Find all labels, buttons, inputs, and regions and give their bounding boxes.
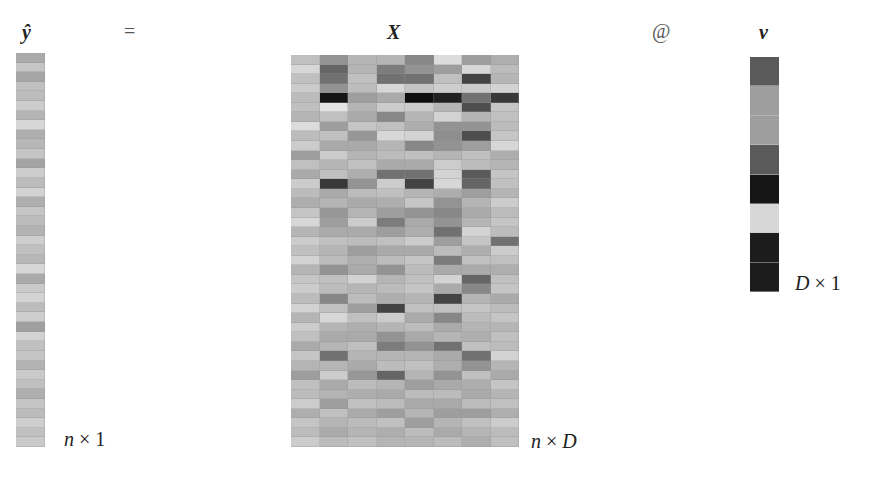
x-matrix-cell <box>377 313 406 323</box>
x-matrix-cell <box>348 294 377 304</box>
x-matrix-cell <box>462 112 491 122</box>
x-matrix-cell <box>320 55 349 65</box>
yhat-cell <box>16 418 45 428</box>
x-matrix-cell <box>405 332 434 342</box>
x-matrix-cell <box>462 284 491 294</box>
x-matrix-cell <box>348 342 377 352</box>
yhat-label: ŷ <box>22 22 31 42</box>
x-matrix-cell <box>434 141 463 151</box>
x-matrix-cell <box>348 390 377 400</box>
x-matrix-cell <box>434 371 463 381</box>
x-matrix-cell <box>377 65 406 75</box>
x-matrix-cell <box>377 237 406 247</box>
x-matrix-cell <box>320 371 349 381</box>
x-matrix-cell <box>377 74 406 84</box>
x-matrix-cell <box>348 428 377 438</box>
x-matrix-cell <box>320 409 349 419</box>
x-matrix-cell <box>434 55 463 65</box>
x-matrix-cell <box>491 103 520 113</box>
x-matrix-cell <box>405 141 434 151</box>
x-matrix-cell <box>491 418 520 428</box>
x-matrix-cell <box>291 428 320 438</box>
x-matrix-cell <box>462 371 491 381</box>
x-matrix-cell <box>491 84 520 94</box>
x-matrix-cell <box>491 198 520 208</box>
yhat-cell <box>16 91 45 101</box>
yhat-cell <box>16 389 45 399</box>
x-matrix-cell <box>320 237 349 247</box>
x-matrix-cell <box>405 218 434 228</box>
x-matrix-cell <box>462 160 491 170</box>
x-matrix-cell <box>491 256 520 266</box>
x-matrix-cell <box>291 208 320 218</box>
x-matrix-cell <box>377 399 406 409</box>
x-matrix-cell <box>320 380 349 390</box>
x-matrix-cell <box>434 342 463 352</box>
x-matrix-cell <box>348 399 377 409</box>
x-matrix-cell <box>405 170 434 180</box>
x-matrix-cell <box>320 74 349 84</box>
x-matrix-cell <box>405 409 434 419</box>
x-matrix-cell <box>434 428 463 438</box>
x-matrix-cell <box>377 112 406 122</box>
x-matrix-cell <box>462 227 491 237</box>
yhat-cell <box>16 139 45 149</box>
yhat-cell <box>16 63 45 73</box>
x-matrix-cell <box>291 390 320 400</box>
x-matrix-cell <box>405 275 434 285</box>
x-matrix-cell <box>462 428 491 438</box>
yhat-cell <box>16 149 45 159</box>
x-matrix-cell <box>462 323 491 333</box>
yhat-cell <box>16 111 45 121</box>
x-matrix-cell <box>434 294 463 304</box>
x-matrix-cell <box>291 351 320 361</box>
x-matrix-cell <box>405 380 434 390</box>
x-matrix-cell <box>434 284 463 294</box>
x-matrix-cell <box>377 179 406 189</box>
x-matrix-cell <box>491 380 520 390</box>
x-matrix-cell <box>462 141 491 151</box>
x-matrix-cell <box>377 246 406 256</box>
x-matrix-cell <box>491 294 520 304</box>
x-matrix-cell <box>405 74 434 84</box>
x-matrix-cell <box>348 380 377 390</box>
x-matrix-cell <box>491 399 520 409</box>
x-matrix-cell <box>320 131 349 141</box>
x-matrix-cell <box>462 256 491 266</box>
yhat-cell <box>16 428 45 438</box>
x-matrix-cell <box>491 323 520 333</box>
x-matrix-cell <box>348 218 377 228</box>
yhat-vector <box>16 53 45 447</box>
x-matrix-cell <box>491 218 520 228</box>
x-matrix-cell <box>405 151 434 161</box>
x-dim-cols: D <box>562 430 576 452</box>
x-matrix-cell <box>434 323 463 333</box>
v-vector <box>750 57 779 292</box>
x-matrix-cell <box>377 323 406 333</box>
x-matrix-cell <box>462 103 491 113</box>
v-dim-cols: 1 <box>831 272 841 294</box>
x-matrix-cell <box>291 275 320 285</box>
x-matrix-cell <box>320 103 349 113</box>
x-matrix-cell <box>491 170 520 180</box>
x-matrix-cell <box>491 208 520 218</box>
x-matrix-cell <box>348 361 377 371</box>
x-matrix-cell <box>291 399 320 409</box>
x-matrix-cell <box>491 65 520 75</box>
x-matrix-cell <box>291 304 320 314</box>
x-matrix-cell <box>434 380 463 390</box>
x-matrix-cell <box>491 304 520 314</box>
x-matrix-cell <box>377 198 406 208</box>
x-matrix-cell <box>291 198 320 208</box>
yhat-cell <box>16 322 45 332</box>
x-matrix-cell <box>291 237 320 247</box>
x-matrix-cell <box>320 304 349 314</box>
x-matrix-cell <box>320 294 349 304</box>
x-matrix-cell <box>348 246 377 256</box>
x-matrix-cell <box>434 189 463 199</box>
x-dimension-label: n × D <box>531 431 577 451</box>
yhat-cell <box>16 255 45 265</box>
x-matrix-cell <box>320 198 349 208</box>
x-matrix-cell <box>462 313 491 323</box>
x-matrix-cell <box>405 103 434 113</box>
